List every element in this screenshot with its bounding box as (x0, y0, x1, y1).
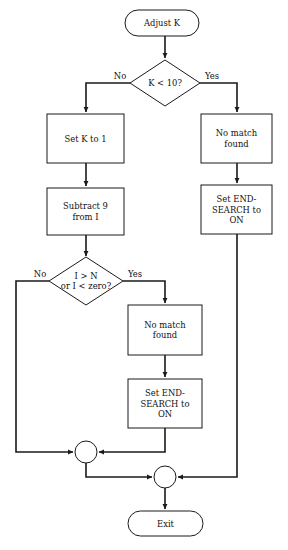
edge-path (86, 463, 152, 477)
label_no_i: No (34, 269, 46, 279)
connector-circle (75, 441, 97, 463)
node-subtract_9_from_i: Subtract 9from I (47, 188, 124, 235)
connector-circle (154, 466, 176, 488)
node-label-line: Adjust K (143, 18, 181, 28)
edge-path (16, 281, 73, 452)
node-decision_i: I > Nor I < zero? (49, 257, 123, 305)
node-label-line: Exit (157, 518, 175, 528)
node-label-line: from I (72, 211, 98, 221)
label_yes_k: Yes (204, 71, 219, 81)
node-label-line: Set K to 1 (64, 133, 106, 143)
node-set_k_to_1: Set K to 1 (47, 114, 124, 163)
node-no_match_found_1: No matchfound (201, 114, 272, 163)
edge-path (123, 281, 165, 303)
edge-path (200, 83, 237, 112)
node-label-line: SEARCH to (141, 398, 190, 408)
flowchart-svg: Adjust KK < 10?Set K to 1No matchfoundSu… (0, 0, 288, 550)
node-connector_2 (154, 466, 176, 488)
node-label-line: Subtract 9 (63, 201, 108, 211)
node-label-line: I > N (75, 270, 98, 280)
edge-path (86, 83, 130, 112)
node-label-line: Set END- (217, 194, 257, 204)
edges-layer (16, 36, 237, 509)
label_no_k: No (114, 71, 126, 81)
node-no_match_found_2: No matchfound (128, 305, 202, 355)
node-label-line: found (224, 138, 249, 148)
node-label: Adjust K (143, 18, 181, 28)
flowchart-canvas: Adjust KK < 10?Set K to 1No matchfoundSu… (0, 0, 288, 550)
node-label-line: ON (229, 214, 243, 224)
node-label-line: No match (216, 128, 258, 138)
node-exit: Exit (128, 511, 203, 536)
node-label-line: Set END- (145, 388, 185, 398)
node-label: Exit (157, 518, 175, 528)
edge-labels-layer: NoYesNoYes (34, 71, 219, 279)
edge-connector1-to-connector2 (86, 463, 152, 477)
nodes-layer: Adjust KK < 10?Set K to 1No matchfoundSu… (47, 10, 272, 536)
node-label: K < 10? (148, 78, 182, 88)
node-label-line: No match (144, 319, 186, 329)
node-decision_k: K < 10? (130, 60, 200, 106)
edge-decision-i-no (16, 281, 73, 452)
node-start: Adjust K (125, 10, 199, 36)
node-label-line: SEARCH to (212, 204, 261, 214)
edge-decision-i-yes (123, 281, 165, 303)
node-label-line: ON (158, 408, 172, 418)
edge-decision-k-no (86, 83, 130, 112)
node-label-line: K < 10? (148, 78, 182, 88)
edge-path (99, 428, 165, 452)
node-set_end_search_on_1: Set END-SEARCH toON (201, 185, 272, 234)
edge-endsearch2-to-connector1 (99, 428, 165, 452)
node-connector_1 (75, 441, 97, 463)
node-label-line: or I < zero? (61, 281, 112, 291)
node-label-line: found (153, 330, 178, 340)
node-set_end_search_on_2: Set END-SEARCH toON (128, 379, 202, 428)
label_yes_i: Yes (127, 269, 142, 279)
node-label: Set K to 1 (64, 133, 106, 143)
edge-decision-k-yes (200, 83, 237, 112)
